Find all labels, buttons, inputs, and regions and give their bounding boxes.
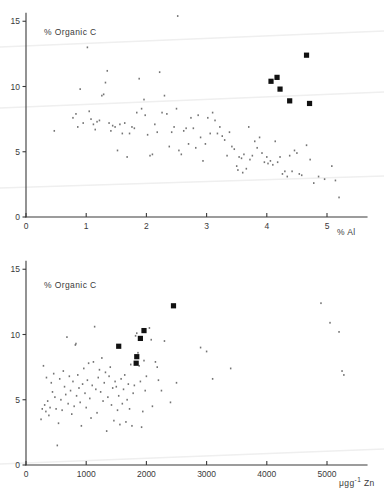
- x-tick-label: 0: [24, 469, 29, 479]
- data-point: [132, 392, 134, 394]
- data-point: [161, 390, 163, 392]
- data-point: [117, 150, 119, 152]
- data-point: [214, 120, 216, 122]
- data-point: [89, 398, 91, 400]
- data-point: [266, 156, 268, 158]
- data-point: [45, 411, 47, 413]
- data-point: [177, 15, 179, 17]
- data-point: [202, 160, 204, 162]
- data-point: [87, 46, 89, 48]
- data-point-highlighted: [304, 53, 309, 58]
- y-axis-label-bottom: % Organic C: [44, 280, 97, 290]
- data-point: [149, 155, 151, 157]
- x-tick-label: 3: [204, 221, 209, 231]
- data-point: [301, 174, 303, 176]
- data-point: [122, 403, 124, 405]
- data-point: [106, 430, 108, 432]
- data-point: [49, 407, 51, 409]
- data-point: [343, 374, 345, 376]
- data-point: [112, 387, 114, 389]
- data-point: [272, 164, 274, 166]
- data-point: [113, 420, 115, 422]
- data-point: [101, 357, 103, 359]
- x-tick-label: 5: [325, 221, 330, 231]
- data-point: [47, 400, 49, 402]
- data-point: [226, 155, 228, 157]
- data-point: [119, 424, 121, 426]
- data-point: [44, 404, 46, 406]
- data-point: [318, 176, 320, 178]
- chart-panel-top: 051015012345 % Organic C % Al: [0, 0, 384, 250]
- data-point: [142, 411, 144, 413]
- data-point: [104, 382, 106, 384]
- data-point: [82, 122, 84, 124]
- data-point: [341, 370, 343, 372]
- data-point: [236, 165, 238, 167]
- data-point: [119, 123, 121, 125]
- data-point: [140, 381, 142, 383]
- data-point-highlighted: [287, 98, 292, 103]
- data-point: [71, 413, 73, 415]
- data-point: [64, 386, 66, 388]
- data-point: [144, 390, 146, 392]
- data-point: [77, 126, 79, 128]
- data-point: [141, 426, 143, 428]
- data-point: [116, 386, 118, 388]
- data-point: [206, 351, 208, 353]
- data-point: [164, 95, 166, 97]
- data-point: [77, 374, 79, 376]
- data-point: [156, 366, 158, 368]
- data-point: [114, 381, 116, 383]
- data-point: [176, 108, 178, 110]
- data-point: [183, 130, 185, 132]
- data-point: [209, 133, 211, 135]
- data-point: [331, 165, 333, 167]
- data-point: [200, 347, 202, 349]
- data-point: [72, 117, 74, 119]
- data-point: [40, 418, 42, 420]
- data-point: [126, 399, 128, 401]
- x-tick-label: 1000: [77, 469, 96, 479]
- data-point: [277, 161, 279, 163]
- data-point: [338, 197, 340, 199]
- data-point-highlighted: [277, 87, 282, 92]
- data-point: [193, 127, 195, 129]
- data-point: [185, 127, 187, 129]
- data-point: [147, 134, 149, 136]
- data-point: [117, 409, 119, 411]
- data-point: [306, 144, 308, 146]
- data-point: [94, 326, 96, 328]
- data-point: [103, 93, 105, 95]
- data-point: [256, 147, 258, 149]
- data-point: [224, 139, 226, 141]
- data-point: [96, 412, 98, 414]
- data-point: [212, 378, 214, 380]
- data-point: [129, 133, 131, 135]
- data-point: [249, 159, 251, 161]
- data-point: [154, 123, 156, 125]
- x-tick-label: 1: [84, 221, 89, 231]
- data-point: [169, 146, 171, 148]
- data-point: [102, 400, 104, 402]
- data-point: [195, 147, 197, 149]
- data-point: [108, 375, 110, 377]
- data-point: [75, 343, 77, 345]
- data-point: [51, 382, 53, 384]
- data-point: [42, 408, 44, 410]
- data-point: [205, 143, 207, 145]
- data-point: [81, 425, 83, 427]
- data-point: [294, 150, 296, 152]
- data-point: [123, 388, 125, 390]
- x-axis-label-top: % Al: [337, 227, 356, 237]
- data-point: [170, 401, 172, 403]
- data-point: [282, 173, 284, 175]
- data-point: [125, 421, 127, 423]
- data-point: [99, 369, 101, 371]
- y-tick-label: 5: [15, 395, 20, 405]
- y-tick-label: 0: [15, 212, 20, 222]
- data-point: [124, 374, 126, 376]
- data-point: [52, 391, 54, 393]
- data-point: [267, 163, 269, 165]
- data-point-highlighted: [274, 75, 279, 80]
- data-point: [313, 182, 315, 184]
